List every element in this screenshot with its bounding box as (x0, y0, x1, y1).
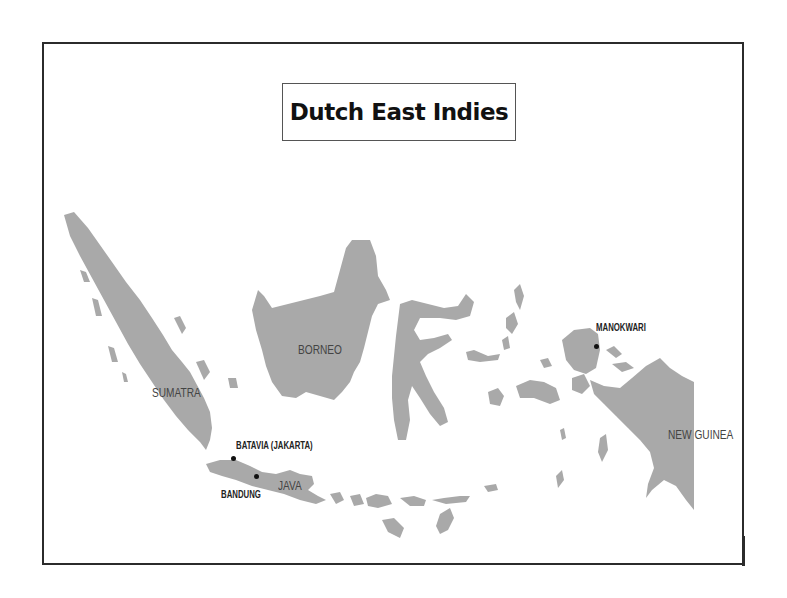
label-batavia: BATAVIA (JAKARTA) (236, 440, 313, 451)
sulawesi-island (392, 294, 474, 440)
map-landmass (0, 0, 787, 598)
label-sumatra: SUMATRA (152, 385, 201, 400)
city-marker-bandung (254, 474, 259, 479)
label-manokwari: MANOKWARI (596, 322, 646, 333)
city-marker-manokwari (594, 344, 599, 349)
label-bandung: BANDUNG (221, 489, 261, 500)
label-java: JAVA (278, 478, 302, 493)
borneo-island (252, 240, 390, 400)
label-borneo: BORNEO (298, 342, 342, 357)
sumatra-island (64, 212, 212, 450)
city-marker-batavia (231, 456, 236, 461)
birds-head-peninsula (562, 328, 600, 374)
label-new-guinea: NEW GUINEA (668, 427, 733, 442)
